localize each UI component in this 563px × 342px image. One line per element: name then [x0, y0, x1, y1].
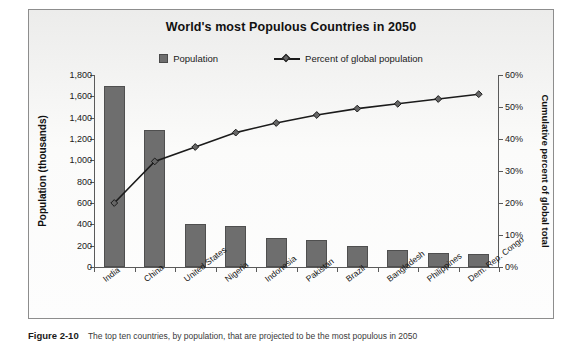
figure-caption-label: Figure 2-10	[28, 330, 79, 341]
legend-item-population: Population	[159, 53, 218, 64]
right-axis-tick-label: 0%	[505, 262, 539, 272]
left-axis-tick-label: 1,600	[46, 91, 92, 101]
line-marker-brazil	[354, 105, 361, 112]
line-marker-nigeria	[232, 129, 239, 136]
left-axis-tick-label: 1,400	[46, 113, 92, 123]
line-marker-bangladesh	[394, 100, 401, 107]
category-axis-tick	[216, 268, 217, 272]
line-diamond-icon	[274, 54, 300, 63]
chart-title: World's most Populous Countries in 2050	[29, 20, 553, 34]
category-axis-tick	[418, 268, 419, 272]
plot-area: 02004006008001,0001,2001,4001,6001,800 0…	[94, 75, 499, 267]
line-marker-philippines	[435, 96, 442, 103]
population-swatch-icon	[159, 54, 168, 63]
line-marker-pakistan	[313, 112, 320, 119]
right-axis-tick-label: 50%	[505, 102, 539, 112]
cumulative-percent-line	[114, 94, 479, 203]
left-axis-tick-label: 200	[46, 241, 92, 251]
right-axis-tick	[499, 75, 503, 76]
right-axis-tick-label: 40%	[505, 134, 539, 144]
chart-figure-frame: World's most Populous Countries in 2050 …	[28, 9, 554, 319]
right-axis-title: Cumulative percent of global total	[537, 75, 551, 267]
chart-legend: Population Percent of global population	[29, 53, 553, 64]
category-axis-tick	[175, 268, 176, 272]
category-axis-tick	[94, 268, 95, 272]
right-axis-tick	[499, 235, 503, 236]
right-axis-tick	[499, 203, 503, 204]
line-marker-indonesia	[273, 120, 280, 127]
left-axis-tick-label: 600	[46, 198, 92, 208]
right-axis-tick	[499, 139, 503, 140]
category-axis-tick	[459, 268, 460, 272]
cumulative-line-series	[94, 75, 499, 267]
right-axis-tick-label: 30%	[505, 166, 539, 176]
legend-label-percent: Percent of global population	[305, 53, 423, 64]
line-marker-united-states	[192, 144, 199, 151]
left-axis-tick-label: 1,000	[46, 155, 92, 165]
category-axis-tick	[256, 268, 257, 272]
category-axis-tick	[378, 268, 379, 272]
right-axis-tick	[499, 107, 503, 108]
category-axis-tick	[135, 268, 136, 272]
left-axis-tick-label: 800	[46, 177, 92, 187]
left-axis-tick-label: 0	[46, 262, 92, 272]
left-axis-tick-label: 1,200	[46, 134, 92, 144]
category-axis-tick	[337, 268, 338, 272]
line-marker-dem-rep-congo	[475, 91, 482, 98]
right-axis-tick	[499, 171, 503, 172]
right-axis-tick-label: 20%	[505, 198, 539, 208]
left-axis-tick-label: 400	[46, 219, 92, 229]
figure-caption: Figure 2-10 The top ten countries, by po…	[28, 330, 556, 342]
category-axis-tick	[297, 268, 298, 272]
legend-label-population: Population	[173, 53, 218, 64]
category-axis-tick	[499, 268, 500, 272]
left-axis-tick-label: 1,800	[46, 70, 92, 80]
left-axis-title: Population (thousands)	[37, 75, 51, 267]
legend-item-percent: Percent of global population	[274, 53, 423, 64]
figure-caption-text: The top ten countries, by population, th…	[88, 331, 417, 341]
right-axis-tick-label: 60%	[505, 70, 539, 80]
